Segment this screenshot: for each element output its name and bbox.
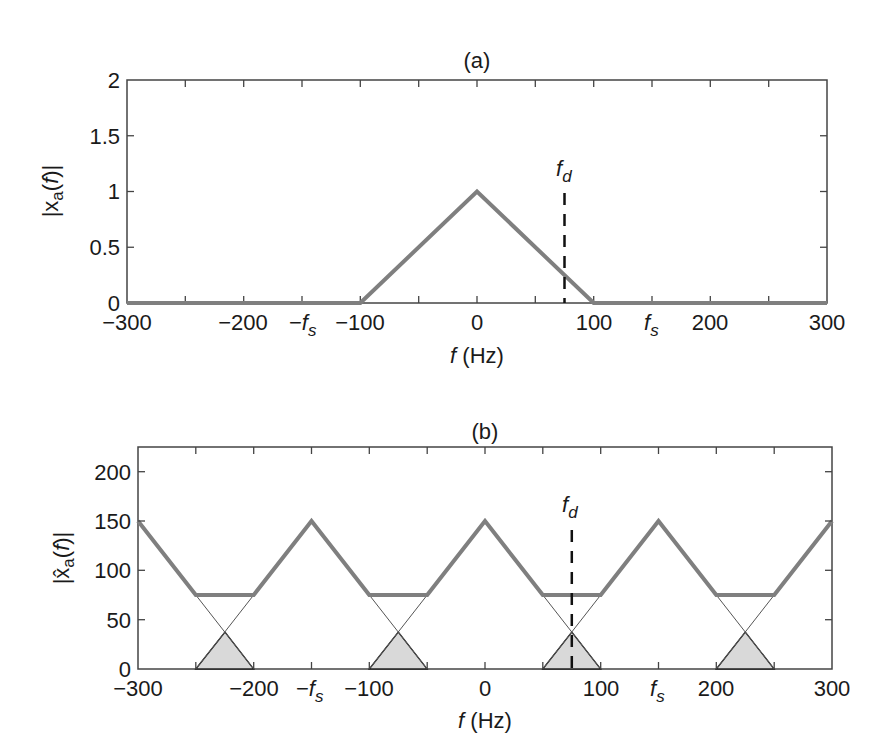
neg-fs-label-b: −fs [296, 676, 324, 706]
plot-b-ylabel: |x̂a(f)| [49, 532, 78, 585]
plot-b-fd-label: fd [562, 492, 578, 522]
svg-text:−100: −100 [335, 310, 385, 335]
svg-text:150: 150 [94, 509, 131, 534]
svg-text:0: 0 [479, 676, 491, 701]
plot-b-replica-thin-lines [196, 595, 774, 669]
plot-a-x-tick-labels: −300 −200 −100 0 100 200 300 −fs fs [102, 310, 845, 340]
plot-b: (b) [49, 419, 850, 733]
svg-text:200: 200 [698, 676, 735, 701]
svg-text:50: 50 [107, 608, 131, 633]
figure: (a) 0 0.5 1 1.5 2 [0, 0, 888, 746]
svg-text:2: 2 [108, 68, 120, 93]
svg-text:−200: −200 [218, 310, 268, 335]
neg-fs-label-a: −fs [289, 310, 317, 340]
plot-b-x-tick-labels: −300 −200 −100 0 100 200 300 −fs fs [113, 676, 850, 706]
svg-text:100: 100 [583, 676, 620, 701]
svg-text:−100: −100 [344, 676, 394, 701]
plot-a-spectrum-line [127, 192, 827, 304]
svg-text:−300: −300 [113, 676, 163, 701]
svg-text:0: 0 [471, 310, 483, 335]
svg-text:−200: −200 [229, 676, 279, 701]
plot-a-ylabel: |xa(f)| [38, 165, 67, 218]
svg-text:−300: −300 [102, 310, 152, 335]
plot-b-axes-box [138, 447, 832, 669]
svg-text:300: 300 [814, 676, 851, 701]
svg-text:1.5: 1.5 [89, 124, 120, 149]
svg-text:300: 300 [809, 310, 846, 335]
plot-b-y-tick-labels: 0 50 100 150 200 [94, 460, 131, 682]
plot-a-fd-label: fd [556, 156, 572, 186]
plot-b-title: (b) [472, 419, 499, 444]
fs-label-b: fs [650, 676, 665, 706]
svg-text:100: 100 [94, 558, 131, 583]
plot-a: (a) 0 0.5 1 1.5 2 [38, 48, 845, 368]
svg-text:200: 200 [692, 310, 729, 335]
plot-b-spectrum-line [138, 521, 832, 595]
plot-b-xlabel: f (Hz) [458, 708, 512, 733]
plot-a-y-tick-labels: 0 0.5 1 1.5 2 [89, 68, 120, 316]
svg-text:100: 100 [576, 310, 613, 335]
svg-text:200: 200 [94, 460, 131, 485]
plot-b-y-ticks [138, 472, 832, 620]
fs-label-a: fs [644, 310, 659, 340]
svg-text:0.5: 0.5 [89, 235, 120, 260]
svg-text:1: 1 [108, 179, 120, 204]
plot-a-xlabel: f (Hz) [450, 343, 504, 368]
plot-a-title: (a) [464, 48, 491, 73]
